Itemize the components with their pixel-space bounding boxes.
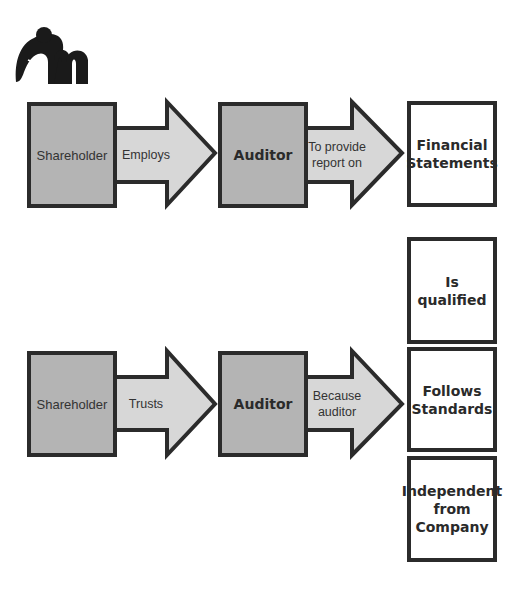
shareholder-label-2: Shareholder [37,397,108,412]
arrow-because-line2: auditor [318,404,356,420]
arrow-because-line1: Because [313,388,362,404]
is-qualified-box: Is qualified [407,237,497,344]
arrow-trusts-label: Trusts [118,377,174,430]
elephant-m-logo-icon [10,22,92,92]
independent-line3: Company [415,518,488,536]
arrow-report-line2: report on [312,155,362,171]
follows-standards-line2: Standards [412,400,493,418]
financial-statements-line1: Financial [416,136,487,154]
independent-line1: Independent [402,482,502,500]
independent-from-company-box: Independent from Company [407,456,497,562]
follows-standards-box: Follows Standards [407,347,497,452]
auditor-label-2: Auditor [234,396,293,412]
auditor-box: Auditor [218,102,308,208]
is-qualified-label: Is qualified [411,273,493,309]
auditor-box-2: Auditor [218,351,308,457]
arrow-employs-label: Employs [118,128,174,182]
financial-statements-line2: Statements [406,154,498,172]
shareholder-box-2: Shareholder [27,351,117,457]
financial-statements-box: Financial Statements [407,101,497,207]
shareholder-label: Shareholder [37,148,108,163]
arrow-report-line1: To provide [308,139,366,155]
auditor-label: Auditor [234,147,293,163]
arrow-because-label: Because auditor [306,377,368,430]
arrow-report-label: To provide report on [306,128,368,182]
independent-line2: from [433,500,470,518]
shareholder-box: Shareholder [27,102,117,208]
follows-standards-line1: Follows [422,382,481,400]
